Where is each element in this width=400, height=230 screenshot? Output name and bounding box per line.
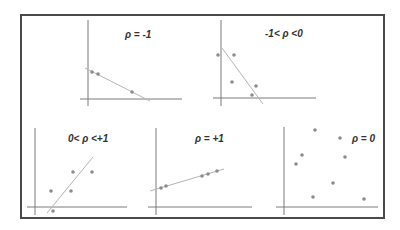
data-point [215,169,219,173]
panel-rho-pos-partial: 0< ρ <+1 [27,128,127,215]
data-point [216,53,220,57]
data-point [254,84,258,88]
data-point [96,72,100,76]
fit-line [222,48,263,104]
data-point [206,172,210,176]
fit-line [47,157,93,213]
data-point [250,93,254,97]
data-point [90,70,94,74]
panel-rho-zero: ρ = 0 [276,127,378,215]
correlation-diagram: ρ = -1 -1< ρ <0 0< ρ <+1 ρ = +1 [0,0,400,230]
data-point [51,209,55,213]
data-point [331,181,335,185]
data-point [230,80,234,84]
data-point [200,174,204,178]
data-point [164,184,168,188]
panel-rho-neg-one: ρ = -1 [80,20,182,106]
data-point [300,153,304,157]
panel-label: 0< ρ <+1 [68,133,109,144]
data-point [311,195,315,199]
data-point [71,170,75,174]
panel-rho-pos-one: ρ = +1 [148,128,252,215]
data-point [294,162,298,166]
data-point [313,128,317,132]
fit-line [85,68,150,101]
panel-label: -1< ρ <0 [265,28,303,39]
panel-label: ρ = 0 [351,133,375,144]
data-point [338,136,342,140]
data-point [362,197,366,201]
panel-label: ρ = +1 [194,133,224,144]
data-point [130,90,134,94]
panel-rho-neg-partial: -1< ρ <0 [213,20,316,106]
data-point [69,189,73,193]
panel-label: ρ = -1 [124,29,152,40]
data-point [343,155,347,159]
data-point [232,53,236,57]
data-point [49,189,53,193]
data-point [159,186,163,190]
data-point [90,170,94,174]
